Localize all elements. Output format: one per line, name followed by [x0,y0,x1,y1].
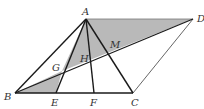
label-c: C [131,97,139,108]
label-m: M [109,39,121,50]
label-b: B [3,91,11,102]
geometry-diagram: A D B C E F G H M [0,0,204,109]
label-f: F [89,97,98,108]
label-g: G [52,62,60,73]
label-a: A [81,6,89,17]
label-d: D [196,13,204,24]
label-h: H [79,53,89,64]
label-e: E [50,97,59,108]
